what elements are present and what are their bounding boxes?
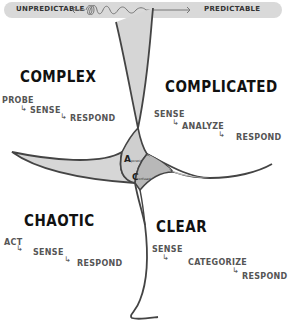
arrow-icon: ↳ — [20, 104, 27, 113]
complex-step-sense: SENSE — [30, 106, 61, 115]
complex-step-probe: PROBE — [2, 96, 34, 105]
arrow-icon: ↳ — [162, 253, 169, 262]
complicated-title: COMPLICATED — [165, 78, 278, 96]
arrow-icon: ↳ — [172, 118, 179, 127]
scale-arrow-icon — [72, 6, 190, 15]
complex-step-respond: RESPOND — [70, 114, 116, 123]
left-wing — [12, 152, 135, 183]
chaotic-title: CHAOTIC — [24, 212, 95, 230]
chaotic-step-sense: SENSE — [33, 248, 64, 257]
aporetic-label: Aporetic — [124, 154, 141, 164]
clear-title: CLEAR — [156, 218, 207, 236]
confused-label: Confused — [132, 172, 151, 182]
arrow-icon: ↳ — [60, 112, 67, 121]
chaotic-step-respond: RESPOND — [77, 259, 123, 268]
arrow-icon: ↳ — [64, 255, 71, 264]
complex-title: COMPLEX — [20, 68, 96, 86]
complicated-step-sense: SENSE — [154, 110, 185, 119]
arrow-icon: ↳ — [16, 244, 23, 253]
complicated-step-respond: RESPOND — [236, 133, 282, 142]
arrow-icon: ↳ — [218, 130, 225, 139]
arrow-icon: ↳ — [232, 266, 239, 275]
clear-step-respond: RESPOND — [242, 272, 288, 281]
